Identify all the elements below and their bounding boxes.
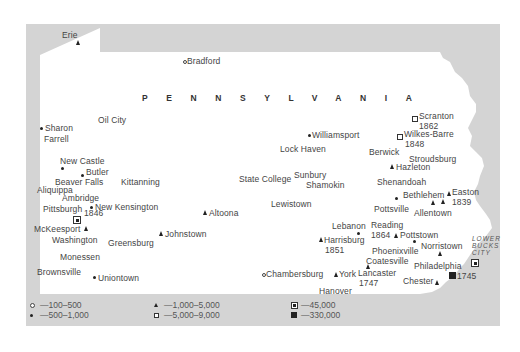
dot-symbol-pottsville xyxy=(395,197,398,200)
place-label-ambridge: Ambridge xyxy=(62,193,99,203)
triangle-symbol-pottstown xyxy=(394,233,398,238)
place-label-bethlehem: Bethlehem xyxy=(403,190,445,200)
dot-symbol-new-kensington xyxy=(90,206,93,209)
place-label-williamsport: Williamsport xyxy=(312,130,359,140)
place-label-state-college: State College xyxy=(239,174,291,184)
place-label-york: York xyxy=(339,269,356,279)
legend-label: —500–1,000 xyxy=(40,310,89,320)
place-label-lancaster: Lancaster xyxy=(358,268,396,278)
legend-item: —100–500 xyxy=(30,300,89,310)
state-label: PENNSYLVANIA xyxy=(142,93,431,103)
place-label-lock-haven: Lock Haven xyxy=(280,144,326,154)
place-year-lancaster: 1747 xyxy=(359,278,378,288)
legend-group-large: —45,000 —330,000 xyxy=(291,300,340,320)
triangle-symbol-york xyxy=(334,272,338,277)
place-label-new-kensington: New Kensington xyxy=(95,202,158,212)
dot-symbol-williamsport xyxy=(308,134,311,137)
triangle-symbol-mckeesport xyxy=(84,226,88,231)
place-year-philadelphia: 1745 xyxy=(457,271,476,281)
place-label-hazleton: Hazleton xyxy=(396,162,430,172)
filled-square-icon xyxy=(291,312,297,318)
triangle-symbol-easton xyxy=(447,191,451,196)
place-label-chester: Chester xyxy=(403,276,433,286)
place-label-kittanning: Kittanning xyxy=(121,177,160,187)
square-dot-symbol-lower-bucks xyxy=(471,259,479,267)
legend-item: —45,000 xyxy=(291,300,340,310)
legend-label: —330,000 xyxy=(301,310,340,320)
place-label-harrisburg: Harrisburg xyxy=(324,235,365,245)
place-label-monessen: Monessen xyxy=(60,252,100,262)
triangle-symbol-chester xyxy=(435,280,439,285)
place-label-coatesville: Coatesville xyxy=(366,256,409,266)
place-label-lewistown: Lewistown xyxy=(271,199,312,209)
place-year-reading: 1864 xyxy=(371,230,390,240)
triangle-symbol-bethlehem xyxy=(431,200,435,205)
legend-label: —5,000–9,000 xyxy=(164,310,220,320)
place-label-mckeesport: McKeesport xyxy=(34,224,80,234)
place-label-bradford: Bradford xyxy=(187,56,220,66)
place-label-uniontown: Uniontown xyxy=(98,273,139,283)
triangle-symbol-johnstown xyxy=(159,231,163,236)
legend-item: —500–1,000 xyxy=(30,310,89,320)
place-label-chambersburg: Chambersburg xyxy=(266,269,323,279)
county-label-line-2: BUCKS xyxy=(472,242,501,249)
place-label-philadelphia: Philadelphia xyxy=(414,261,462,271)
triangle-symbol-harrisburg xyxy=(319,237,323,242)
county-label-lower-bucks-city: LOWER BUCKS CITY xyxy=(472,235,501,256)
place-label-berwick: Berwick xyxy=(369,147,399,157)
place-label-reading: Reading xyxy=(371,220,403,230)
triangle-symbol-altoona xyxy=(203,210,207,215)
place-label-erie: Erie xyxy=(62,30,78,40)
place-label-greensburg: Greensburg xyxy=(108,238,154,248)
dot-symbol-uniontown xyxy=(93,276,96,279)
filled-square-symbol-philadelphia xyxy=(449,272,456,279)
legend-label: —100–500 xyxy=(40,300,82,310)
place-label-farrell: Farrell xyxy=(44,134,69,144)
place-label-pottsville: Pottsville xyxy=(374,204,409,214)
place-label-new-castle: New Castle xyxy=(60,156,104,166)
place-label-butler: Butler xyxy=(86,167,109,177)
dot-icon xyxy=(30,314,33,317)
legend-item: —330,000 xyxy=(291,310,340,320)
place-label-pottstown: Pottstown xyxy=(400,230,438,240)
place-label-johnstown: Johnstown xyxy=(165,229,207,239)
place-label-pittsburgh: Pittsburgh xyxy=(43,204,82,214)
place-label-altoona: Altoona xyxy=(209,208,239,218)
triangle-symbol-hazleton xyxy=(390,164,394,169)
square-dot-icon xyxy=(291,302,298,309)
place-label-shenandoah: Shenandoah xyxy=(377,177,426,187)
place-label-scranton: Scranton xyxy=(419,111,454,121)
open-square-symbol-scranton xyxy=(412,116,418,122)
place-year-harrisburg: 1851 xyxy=(325,245,344,255)
dot-symbol-phoenixville xyxy=(413,240,416,243)
place-year-easton: 1839 xyxy=(452,197,471,207)
place-label-shamokin: Shamokin xyxy=(306,180,345,190)
legend-group-small: —100–500 —500–1,000 xyxy=(30,300,89,320)
place-label-allentown: Allentown xyxy=(414,208,452,218)
open-square-symbol-wilkes-barre xyxy=(397,134,403,140)
place-label-wilkes-barre: Wilkes-Barre xyxy=(404,129,454,139)
legend-label: —1,000–5,000 xyxy=(164,300,220,310)
place-year-wilkes-barre: 1848 xyxy=(405,139,424,149)
dot-symbol-sharon xyxy=(40,127,43,130)
place-label-easton: Easton xyxy=(452,187,479,197)
place-label-washington: Washington xyxy=(52,235,98,245)
triangle-symbol-allentown xyxy=(441,199,445,204)
legend-label: —45,000 xyxy=(301,300,336,310)
triangle-symbol-norristown xyxy=(438,251,442,256)
place-label-sunbury: Sunbury xyxy=(294,170,326,180)
place-label-lebanon: Lebanon xyxy=(332,221,366,231)
triangle-symbol-erie xyxy=(76,40,80,45)
triangle-icon xyxy=(154,303,158,307)
dot-symbol-new-castle xyxy=(61,167,64,170)
open-circle-icon xyxy=(30,303,35,308)
square-dot-symbol-pittsburgh xyxy=(73,216,81,224)
county-label-line-1: LOWER xyxy=(472,235,501,242)
legend-item: —5,000–9,000 xyxy=(154,310,220,320)
place-label-brownsville: Brownsville xyxy=(37,267,81,277)
place-label-oil-city: Oil City xyxy=(98,115,126,125)
county-label-line-3: CITY xyxy=(472,249,501,256)
open-square-icon xyxy=(154,313,159,318)
place-label-hanover: Hanover xyxy=(319,286,352,296)
legend-group-medium: —1,000–5,000 —5,000–9,000 xyxy=(154,300,220,320)
